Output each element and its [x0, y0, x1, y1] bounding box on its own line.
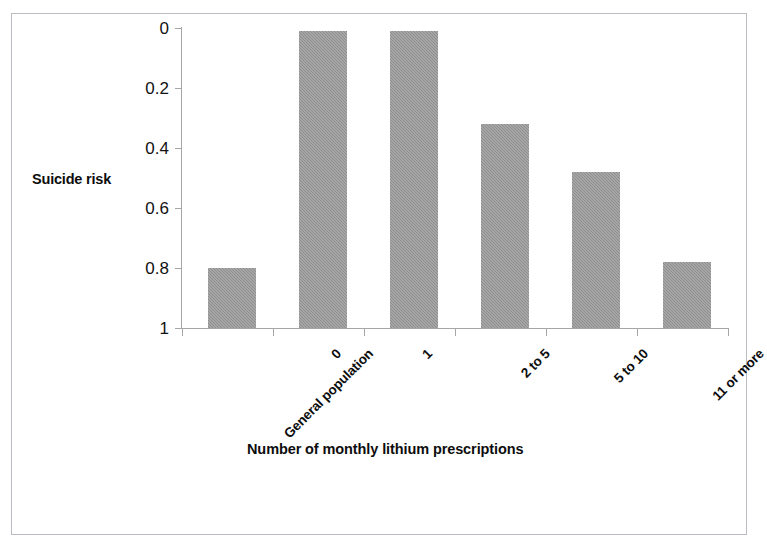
y-axis-title: Suicide risk: [32, 171, 111, 187]
bar-0: [299, 31, 347, 328]
x-axis-title: Number of monthly lithium prescriptions: [247, 441, 523, 457]
y-tick-mark: [175, 328, 182, 329]
x-tick-mark: [364, 329, 365, 336]
bar-1: [390, 31, 438, 328]
y-tick-mark: [175, 268, 182, 269]
y-tick-label: 0.2: [145, 80, 169, 97]
x-tick-mark: [637, 329, 638, 336]
y-tick-mark: [175, 28, 182, 29]
x-tick-label-5-to-10: 5 to 10: [611, 346, 651, 386]
x-tick-label-0: 0: [328, 346, 344, 362]
y-tick-label: 0: [160, 20, 169, 37]
x-tick-label-2-to-5: 2 to 5: [518, 346, 553, 381]
bar-5-to-10: [572, 172, 620, 328]
x-tick-label-1: 1: [419, 346, 435, 362]
y-tick-label: 0.8: [145, 260, 169, 277]
plot-area: [182, 28, 728, 328]
bar-11-or-more: [663, 262, 711, 328]
y-tick-mark: [175, 88, 182, 89]
x-tick-mark: [273, 329, 274, 336]
bar-chart: 1 0.8 0.6 0.4 0.2 0 Suicide risk General…: [1, 1, 762, 547]
y-tick-mark: [175, 148, 182, 149]
y-tick-label: 0.4: [145, 140, 169, 157]
x-tick-mark: [546, 329, 547, 336]
y-axis-tick-labels: 1 0.8 0.6 0.4 0.2 0: [1, 1, 169, 547]
x-tick-mark: [182, 329, 183, 336]
y-tick-label: 0.6: [145, 200, 169, 217]
x-tick-mark: [455, 329, 456, 336]
x-tick-label-general-population: General population: [281, 346, 376, 441]
bar-general-population: [208, 268, 256, 328]
bar-2-to-5: [481, 124, 529, 328]
figure-frame: 1 0.8 0.6 0.4 0.2 0 Suicide risk General…: [11, 13, 747, 535]
x-tick-mark: [728, 329, 729, 336]
x-tick-label-11-or-more: 11 or more: [709, 346, 766, 403]
y-tick-label: 1: [160, 320, 169, 337]
y-tick-mark: [175, 208, 182, 209]
